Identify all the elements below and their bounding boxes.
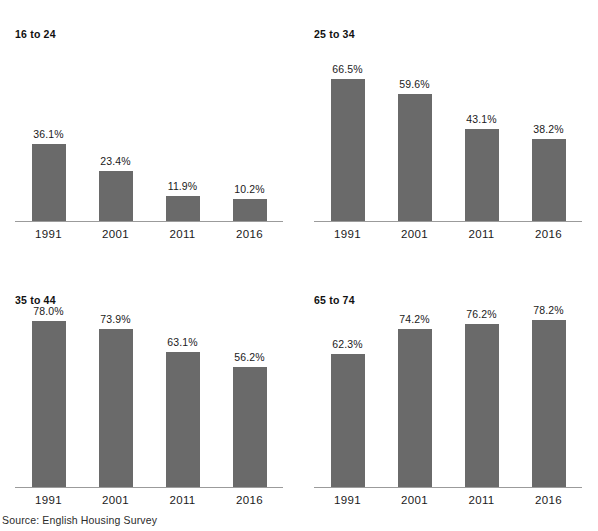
x-axis-line (15, 487, 283, 488)
bar-group: 62.3% 74.2% 76.2% 78.2% (314, 312, 582, 487)
chart-panel-25-to-34: 25 to 34 66.5% 59.6% 43.1% 38.2% (299, 18, 598, 268)
bar-value-label: 11.9% (168, 180, 198, 192)
bar (331, 79, 365, 221)
bar-value-label: 73.9% (100, 313, 130, 325)
x-axis-line (15, 221, 283, 222)
x-axis-line (314, 221, 582, 222)
source-note: Source: English Housing Survey (2, 514, 157, 526)
bar (32, 144, 66, 221)
x-axis-tick-labels: 1991 2001 2011 2016 (314, 494, 582, 512)
plot-area: 36.1% 23.4% 11.9% 10.2% (15, 46, 283, 222)
bar-slot: 11.9% (149, 46, 216, 221)
x-tick-label: 2011 (149, 228, 216, 240)
bar-value-label: 23.4% (100, 155, 130, 167)
x-tick-label: 1991 (314, 494, 381, 506)
bar-group: 66.5% 59.6% 43.1% 38.2% (314, 46, 582, 221)
panel-title: 65 to 74 (314, 294, 355, 306)
x-tick-label: 2016 (515, 228, 582, 240)
bar-slot: 36.1% (15, 46, 82, 221)
bar (398, 94, 432, 221)
bar-value-label: 36.1% (33, 128, 63, 140)
bar-slot: 59.6% (381, 46, 448, 221)
bar (398, 329, 432, 487)
bar (532, 139, 566, 221)
bar (331, 354, 365, 487)
panel-title: 25 to 34 (314, 28, 355, 40)
bar (99, 329, 133, 487)
bar-value-label: 66.5% (332, 63, 362, 75)
x-tick-label: 2011 (448, 228, 515, 240)
x-tick-label: 2001 (82, 494, 149, 506)
bar-value-label: 43.1% (466, 113, 496, 125)
bar-group: 36.1% 23.4% 11.9% 10.2% (15, 46, 283, 221)
x-tick-label: 2016 (515, 494, 582, 506)
bar-slot: 62.3% (314, 312, 381, 487)
x-tick-label: 1991 (15, 494, 82, 506)
bar-group: 78.0% 73.9% 63.1% 56.2% (15, 312, 283, 487)
chart-panel-65-to-74: 65 to 74 62.3% 74.2% 76.2% 78.2% (299, 284, 598, 531)
bar (32, 321, 66, 487)
bar-value-label: 59.6% (399, 78, 429, 90)
x-tick-label: 1991 (314, 228, 381, 240)
x-tick-label: 2016 (216, 228, 283, 240)
x-tick-label: 1991 (15, 228, 82, 240)
bar (233, 199, 267, 221)
bar (233, 367, 267, 487)
bar-slot: 63.1% (149, 312, 216, 487)
x-axis-line (314, 487, 582, 488)
x-tick-label: 2001 (381, 494, 448, 506)
bar (99, 171, 133, 221)
bar-slot: 78.2% (515, 312, 582, 487)
bar-value-label: 62.3% (332, 338, 362, 350)
bar-slot: 10.2% (216, 46, 283, 221)
bar (166, 352, 200, 487)
bar-value-label: 38.2% (533, 123, 563, 135)
bar-slot: 66.5% (314, 46, 381, 221)
panel-title: 16 to 24 (15, 28, 56, 40)
bar-value-label: 76.2% (466, 308, 496, 320)
bar-slot: 38.2% (515, 46, 582, 221)
bar (532, 320, 566, 487)
bar-slot: 23.4% (82, 46, 149, 221)
bar (465, 129, 499, 221)
bar-slot: 78.0% (15, 312, 82, 487)
plot-area: 66.5% 59.6% 43.1% 38.2% (314, 46, 582, 222)
bar (166, 196, 200, 221)
x-tick-label: 2001 (82, 228, 149, 240)
chart-figure: 16 to 24 36.1% 23.4% 11.9% 10.2% (0, 0, 598, 531)
bar (465, 324, 499, 487)
x-tick-label: 2011 (149, 494, 216, 506)
bar-value-label: 56.2% (234, 351, 264, 363)
bar-value-label: 63.1% (167, 336, 197, 348)
plot-area: 78.0% 73.9% 63.1% 56.2% (15, 312, 283, 488)
bar-slot: 73.9% (82, 312, 149, 487)
bar-value-label: 78.0% (33, 305, 63, 317)
bar-value-label: 78.2% (533, 304, 563, 316)
x-axis-tick-labels: 1991 2001 2011 2016 (15, 228, 283, 246)
x-tick-label: 2011 (448, 494, 515, 506)
x-tick-label: 2001 (381, 228, 448, 240)
chart-panel-35-to-44: 35 to 44 78.0% 73.9% 63.1% 56.2% (0, 284, 299, 531)
x-axis-tick-labels: 1991 2001 2011 2016 (15, 494, 283, 512)
chart-panel-16-to-24: 16 to 24 36.1% 23.4% 11.9% 10.2% (0, 18, 299, 268)
bar-slot: 56.2% (216, 312, 283, 487)
bar-value-label: 10.2% (234, 183, 264, 195)
bar-slot: 74.2% (381, 312, 448, 487)
bar-slot: 76.2% (448, 312, 515, 487)
bar-slot: 43.1% (448, 46, 515, 221)
x-tick-label: 2016 (216, 494, 283, 506)
plot-area: 62.3% 74.2% 76.2% 78.2% (314, 312, 582, 488)
bar-value-label: 74.2% (399, 313, 429, 325)
x-axis-tick-labels: 1991 2001 2011 2016 (314, 228, 582, 246)
